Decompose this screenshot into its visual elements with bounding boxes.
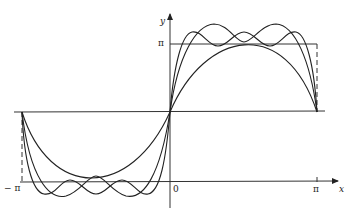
- x-axis: [20, 181, 338, 182]
- y-axis-label: y: [160, 16, 165, 26]
- x-axis-label: x: [339, 184, 344, 194]
- y-tick-pi: π: [158, 38, 164, 48]
- fourier-plot: [0, 0, 361, 217]
- x-tick-zero: 0: [173, 184, 179, 194]
- x-tick-pi: π: [313, 184, 319, 194]
- x-tick-neg-pi: − π: [4, 183, 20, 193]
